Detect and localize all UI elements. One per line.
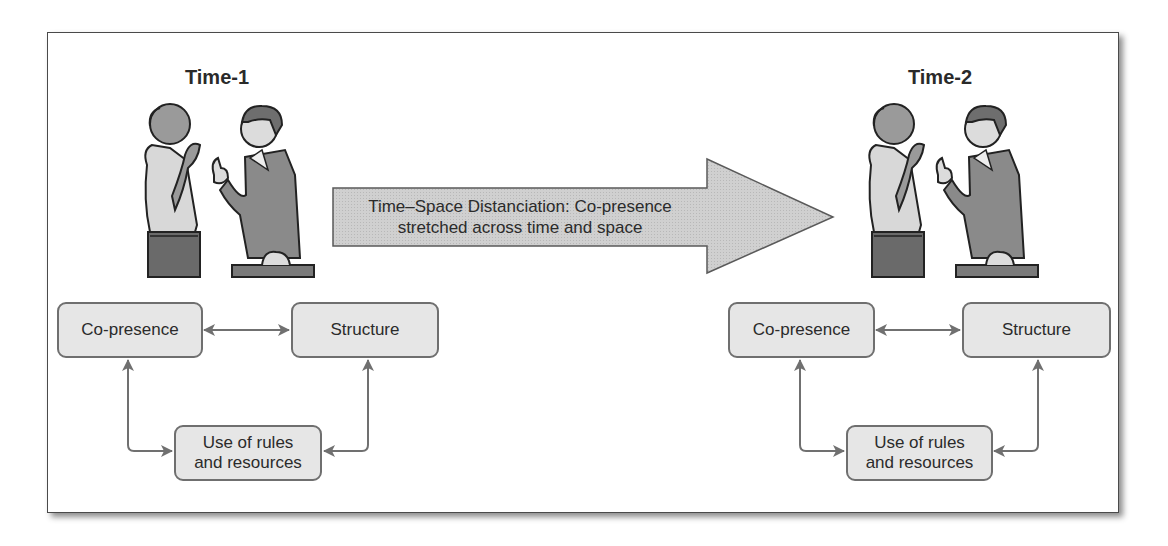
rules-resources-line1: Use of rules (874, 433, 965, 453)
rules-resources-node: Use of rules and resources (174, 425, 322, 481)
distanciation-caption-line2: stretched across time and space (398, 217, 643, 238)
structure-node-label: Structure (1002, 320, 1071, 340)
rules-resources-line1: Use of rules (203, 433, 294, 453)
two-men-conversing-icon (145, 104, 314, 277)
copresence-node-label: Co-presence (81, 320, 178, 340)
structure-node-label: Structure (331, 320, 400, 340)
copresence-node: Co-presence (57, 302, 203, 358)
rules-resources-line2: and resources (194, 453, 302, 473)
diagram-canvas: Time-1 Time-2 Time–Space Distanciation: … (0, 0, 1168, 546)
structure-node: Structure (962, 302, 1111, 358)
time-1-label: Time-1 (185, 66, 249, 89)
distanciation-caption: Time–Space Distanciation: Co-presence st… (333, 188, 707, 246)
time-2-label: Time-2 (908, 66, 972, 89)
rules-resources-node: Use of rules and resources (846, 425, 993, 481)
copresence-node-label: Co-presence (753, 320, 850, 340)
copresence-node: Co-presence (728, 302, 875, 358)
copresence-rules-arrow (800, 360, 844, 451)
distanciation-caption-line1: Time–Space Distanciation: Co-presence (368, 196, 672, 217)
two-men-conversing-icon (869, 104, 1038, 277)
structure-rules-arrow (994, 360, 1038, 451)
copresence-rules-arrow (128, 360, 172, 451)
structure-node: Structure (291, 302, 439, 358)
structure-rules-arrow (324, 360, 368, 451)
rules-resources-line2: and resources (866, 453, 974, 473)
